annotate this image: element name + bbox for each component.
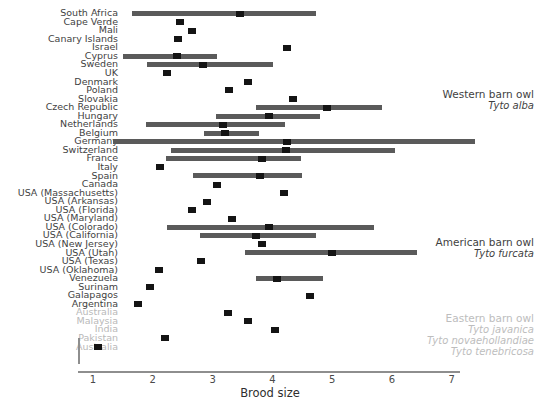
confidence-interval-bar — [256, 105, 382, 110]
data-point-marker — [252, 233, 260, 239]
group-annotation-0: Western barn owlTyto alba — [442, 88, 534, 111]
data-point-marker — [306, 293, 314, 299]
data-point-marker — [134, 301, 142, 307]
data-point-marker — [224, 310, 232, 316]
group-scientific-name-extra-0: Tyto novaehollandiae — [427, 335, 534, 346]
data-point-marker — [155, 267, 163, 273]
x-tick-label: 6 — [382, 374, 402, 385]
data-point-marker — [323, 105, 331, 111]
confidence-interval-bar — [166, 156, 301, 161]
data-point-marker — [228, 216, 236, 222]
data-point-marker — [176, 19, 184, 25]
group-common-name: Eastern barn owl — [427, 312, 534, 324]
confidence-interval-bar — [193, 173, 302, 178]
confidence-interval-bar — [132, 11, 316, 16]
data-point-marker — [282, 147, 290, 153]
data-point-marker — [265, 224, 273, 230]
data-point-marker — [244, 318, 252, 324]
data-point-marker — [328, 250, 336, 256]
data-point-marker — [289, 96, 297, 102]
x-tick-label: 1 — [83, 374, 103, 385]
data-point-marker — [283, 45, 291, 51]
data-point-marker — [221, 130, 229, 136]
data-point-marker — [265, 113, 273, 119]
data-point-marker — [156, 164, 164, 170]
data-point-marker — [213, 182, 221, 188]
confidence-interval-bar — [256, 276, 324, 281]
data-point-marker — [225, 87, 233, 93]
group-scientific-name-extra-1: Tyto tenebricosa — [427, 346, 534, 357]
data-point-marker — [258, 241, 266, 247]
data-point-marker — [256, 173, 264, 179]
data-point-marker — [163, 70, 171, 76]
x-tick-label: 5 — [322, 374, 342, 385]
group-annotation-2: Eastern barn owlTyto javanicaTyto novaeh… — [427, 312, 534, 357]
confidence-interval-bar — [113, 139, 474, 144]
data-point-marker — [188, 207, 196, 213]
data-point-marker — [280, 190, 288, 196]
data-point-marker — [203, 199, 211, 205]
data-point-marker — [271, 327, 279, 333]
category-label-column: South AfricaCape VerdeMaliCanary Islands… — [0, 0, 118, 370]
group-scientific-name: Tyto furcata — [436, 248, 534, 259]
group-scientific-name: Tyto alba — [442, 100, 534, 111]
confidence-interval-bar — [147, 62, 273, 67]
x-tick-label: 2 — [143, 374, 163, 385]
data-point-marker — [197, 258, 205, 264]
data-point-marker — [258, 156, 266, 162]
forest-plot: South AfricaCape VerdeMaliCanary Islands… — [0, 0, 540, 410]
confidence-interval-bar — [204, 131, 260, 136]
x-tick-label: 4 — [262, 374, 282, 385]
data-point-marker — [199, 62, 207, 68]
data-point-marker — [173, 53, 181, 59]
confidence-interval-bar — [123, 54, 217, 59]
data-point-marker — [273, 276, 281, 282]
data-point-marker — [94, 344, 102, 350]
group-scientific-name: Tyto javanica — [427, 324, 534, 335]
group-annotation-1: American barn owlTyto furcata — [436, 236, 534, 259]
x-tick-label: 7 — [442, 374, 462, 385]
data-point-marker — [174, 36, 182, 42]
data-point-marker — [219, 122, 227, 128]
data-point-marker — [161, 335, 169, 341]
group-common-name: Western barn owl — [442, 88, 534, 100]
data-point-marker — [283, 139, 291, 145]
x-axis-title: Brood size — [0, 386, 540, 400]
x-tick-label: 3 — [203, 374, 223, 385]
data-point-marker — [188, 28, 196, 34]
data-point-marker — [236, 11, 244, 17]
y-axis-segment — [78, 338, 80, 364]
data-point-marker — [146, 284, 154, 290]
group-common-name: American barn owl — [436, 236, 534, 248]
confidence-interval-bar — [146, 122, 285, 127]
data-point-marker — [244, 79, 252, 85]
x-axis-line — [78, 371, 460, 373]
